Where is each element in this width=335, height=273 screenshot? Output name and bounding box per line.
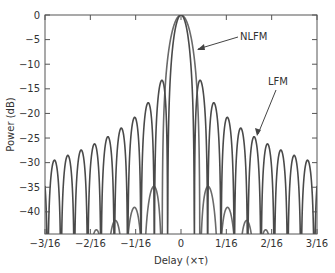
svg-text:0: 0 [34, 10, 40, 21]
svg-text:NLFM: NLFM [240, 31, 267, 42]
svg-text:−5: −5 [25, 34, 40, 45]
svg-text:LFM: LFM [268, 76, 288, 87]
svg-text:Delay (×τ): Delay (×τ) [154, 255, 208, 266]
svg-text:1/16: 1/16 [215, 238, 237, 249]
series-line [45, 15, 317, 259]
svg-text:−10: −10 [19, 59, 40, 70]
chart: 0−5−10−15−20−25−30−35−40−3/16−2/16−1/160… [0, 0, 335, 273]
series-line [45, 15, 317, 259]
svg-text:−30: −30 [19, 157, 40, 168]
svg-text:−1/16: −1/16 [120, 238, 151, 249]
svg-text:−25: −25 [19, 133, 40, 144]
svg-text:2/16: 2/16 [260, 238, 282, 249]
plot-area: 0−5−10−15−20−25−30−35−40−3/16−2/16−1/160… [0, 0, 335, 273]
svg-text:3/16: 3/16 [306, 238, 328, 249]
svg-text:−2/16: −2/16 [75, 238, 106, 249]
svg-text:0: 0 [178, 238, 184, 249]
svg-text:−3/16: −3/16 [30, 238, 61, 249]
svg-text:−35: −35 [19, 182, 40, 193]
svg-text:−40: −40 [19, 206, 40, 217]
svg-text:−15: −15 [19, 83, 40, 94]
svg-text:−20: −20 [19, 108, 40, 119]
svg-text:Power (dB): Power (dB) [5, 97, 16, 152]
